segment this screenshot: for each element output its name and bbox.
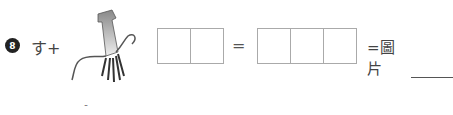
squid-icon [68, 6, 148, 88]
answer-box[interactable] [324, 29, 356, 63]
result-prefix: =圖片 [367, 36, 409, 78]
answer-box[interactable] [258, 29, 291, 63]
equals-sign: = [232, 36, 245, 55]
answer-box[interactable] [191, 29, 223, 63]
answer-boxes-group-1 [157, 28, 224, 64]
answer-boxes-group-2 [257, 28, 357, 64]
prefix-text: す+ [31, 35, 60, 59]
result-line: =圖片 [367, 36, 453, 78]
question-number-badge: 8 [5, 38, 20, 53]
answer-blank[interactable] [411, 61, 453, 78]
answer-box[interactable] [158, 29, 191, 63]
answer-box[interactable] [291, 29, 324, 63]
footer-mark: ¨ [84, 105, 89, 114]
